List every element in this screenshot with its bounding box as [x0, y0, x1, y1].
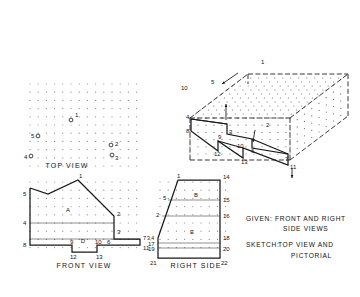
point-label: 20 — [223, 246, 230, 252]
right-side-surface-labels: BE — [190, 192, 198, 235]
point-label: 10 — [237, 143, 244, 149]
point-label: 15 — [223, 197, 230, 203]
point-label: 2 — [115, 141, 119, 147]
surface-label: E — [190, 229, 194, 235]
point-label: 12 — [70, 254, 77, 260]
point-label: 1 — [79, 173, 83, 179]
point-label: 5 — [23, 191, 27, 197]
pictorial-object-lines — [191, 119, 288, 165]
point-label: 9 — [218, 134, 222, 140]
point-label: 2 — [266, 122, 270, 128]
front-view-point-labels: 15234671189101213 — [23, 173, 150, 260]
point-label: 1 — [261, 59, 265, 65]
right-side-view-title: RIGHT SIDE — [171, 262, 222, 269]
surface-label: A — [66, 207, 70, 213]
point-label: 14 — [223, 174, 230, 180]
right-side-construction-lines — [158, 200, 220, 248]
surface-label: D — [81, 238, 86, 244]
drawing-sheet: 15234 TOP VIEW AD 15234671189101213 FRON… — [0, 0, 360, 297]
point-label: 18 — [223, 235, 230, 241]
right-side-point-labels: 1145152163,4181720192122 — [147, 173, 230, 266]
point-label: 22 — [221, 260, 228, 266]
point-label: 10 — [181, 85, 188, 91]
point-label: 5 — [163, 195, 167, 201]
top-view-points: 15234 — [24, 112, 119, 161]
point-label: 11 — [290, 164, 297, 170]
point-label: 3 — [115, 155, 119, 161]
pictorial-isometric-dot-grid — [189, 77, 341, 154]
front-view-title: FRONT VIEW — [57, 262, 112, 269]
point-label: 21 — [150, 260, 157, 266]
point-label: 6 — [107, 239, 111, 245]
point-label: 4 — [23, 220, 27, 226]
point-label: 13 — [241, 159, 248, 165]
point-label: 3 — [229, 129, 233, 135]
point-label: 4 — [186, 114, 190, 120]
right-side-view-grid — [159, 181, 226, 248]
point-label: 5 — [31, 133, 35, 139]
point-label: 9 — [70, 239, 74, 245]
point-label: 8 — [186, 128, 190, 134]
sketch-label: SKETCH: — [246, 241, 279, 248]
point-label: 1 — [75, 112, 79, 118]
point-label: 10 — [95, 239, 102, 245]
top-view-grid — [29, 83, 137, 166]
engineering-drawing: 15234 TOP VIEW AD 15234671189101213 FRON… — [0, 0, 360, 297]
point-label: 8 — [23, 242, 27, 248]
point-label: 12 — [214, 151, 221, 157]
point-label: 3 — [117, 229, 121, 235]
point-label: 13 — [96, 254, 103, 260]
front-view-surface-labels: AD — [66, 207, 86, 244]
point-label: 5 — [211, 79, 215, 85]
point-label: 2 — [156, 212, 160, 218]
given-line-1: FRONT AND RIGHT — [275, 215, 346, 222]
pictorial-direction-arrows — [222, 73, 293, 178]
surface-label: B — [194, 192, 198, 198]
point-label: 19 — [148, 246, 155, 252]
point-label: 4 — [24, 154, 28, 160]
given-label: GIVEN: — [246, 215, 273, 222]
right-side-view-outline — [158, 180, 220, 258]
sketch-line-1: TOP VIEW AND — [278, 241, 334, 248]
point-label: 1 — [177, 173, 181, 179]
point-label: 2 — [117, 211, 121, 217]
pictorial-point-labels: 1541089312131062711 — [181, 59, 297, 170]
given-line-2: SIDE VIEWS — [283, 225, 328, 232]
point-label: 16 — [223, 213, 230, 219]
sketch-line-2: PICTORIAL — [291, 252, 332, 259]
top-view-title: TOP VIEW — [46, 162, 89, 169]
